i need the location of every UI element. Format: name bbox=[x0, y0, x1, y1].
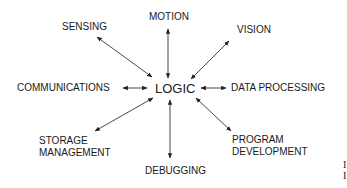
arrow-vision bbox=[191, 41, 229, 79]
node-vision: VISION bbox=[237, 24, 271, 36]
node-communications: COMMUNICATIONS bbox=[17, 82, 110, 94]
edge-artifact: I I bbox=[343, 159, 346, 181]
program-line1: PROGRAM bbox=[232, 134, 308, 146]
node-program-development: PROGRAM DEVELOPMENT bbox=[232, 134, 308, 158]
program-line2: DEVELOPMENT bbox=[232, 146, 308, 158]
node-debugging: DEBUGGING bbox=[145, 165, 206, 177]
arrow-sensing bbox=[97, 37, 152, 77]
storage-line2: MANAGEMENT bbox=[39, 147, 111, 159]
node-data-processing: DATA PROCESSING bbox=[231, 82, 325, 94]
node-logic-center: LOGIC bbox=[155, 81, 195, 96]
arrow-storage-management bbox=[95, 98, 153, 131]
logic-diagram: SENSING MOTION VISION COMMUNICATIONS LOG… bbox=[0, 0, 347, 188]
node-motion: MOTION bbox=[149, 11, 189, 23]
node-sensing: SENSING bbox=[62, 21, 107, 33]
node-storage-management: STORAGE MANAGEMENT bbox=[39, 135, 111, 159]
arrow-program-development bbox=[196, 98, 231, 131]
storage-line1: STORAGE bbox=[39, 135, 111, 147]
